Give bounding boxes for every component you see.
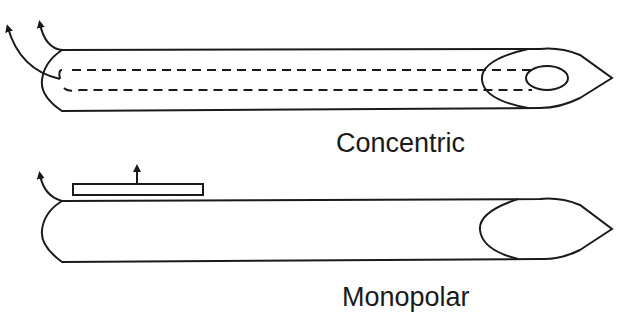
cannula-lead-arrow-icon: [40, 24, 62, 50]
reference-surface-electrode: [73, 184, 203, 195]
core-lead-arrow-icon: [8, 28, 62, 79]
concentric-label: Concentric: [336, 128, 465, 158]
concentric-bevel-edge: [482, 49, 528, 108]
needle-lead-arrow-icon: [40, 175, 62, 201]
monopolar-shaft-outline: [42, 199, 612, 262]
needle-diagram: Concentric Monopolar: [0, 0, 636, 323]
monopolar-label: Monopolar: [342, 282, 470, 312]
concentric-needle: [8, 24, 612, 111]
core-wire-bottom: [64, 88, 532, 91]
monopolar-needle: [40, 168, 612, 262]
monopolar-bevel-edge: [480, 199, 518, 259]
core-recording-surface: [526, 66, 568, 90]
